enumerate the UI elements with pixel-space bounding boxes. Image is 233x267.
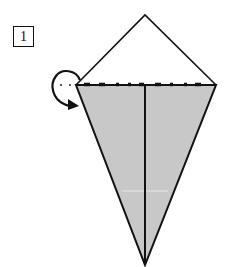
- origami-diagram: [0, 0, 233, 267]
- fold-line: [76, 85, 216, 86]
- top-triangle-flap: [76, 15, 216, 85]
- fold-line-dots: [60, 84, 71, 86]
- turn-over-arrow-icon: [53, 71, 80, 110]
